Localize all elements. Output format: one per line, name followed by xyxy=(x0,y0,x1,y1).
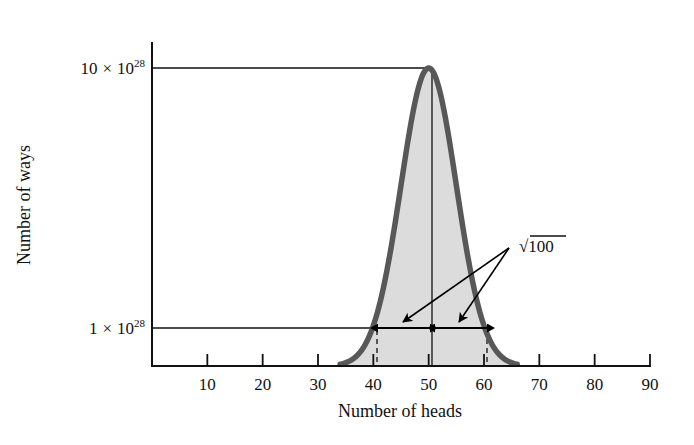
svg-text:10×1028: 10×1028 xyxy=(80,57,145,78)
x-axis-tick-label: 10 xyxy=(199,375,216,394)
figure-container: 102030405060708090 10×1028 1×1028 √100 N… xyxy=(0,0,694,445)
y-bottom-mantissa: 1 xyxy=(89,319,98,338)
x-axis-tick-label: 20 xyxy=(254,375,271,394)
x-axis-tick-label: 60 xyxy=(476,375,493,394)
y-axis-tick-label-top: 10×1028 xyxy=(80,57,145,78)
x-axis-ticks xyxy=(207,354,650,366)
y-bottom-base: 10 xyxy=(117,319,134,338)
chart-svg: 102030405060708090 10×1028 1×1028 √100 N… xyxy=(0,0,694,445)
y-top-exponent: 28 xyxy=(134,57,146,69)
x-axis-tick-label: 90 xyxy=(642,375,659,394)
x-axis-title: Number of heads xyxy=(338,401,462,421)
y-bottom-times: × xyxy=(102,319,112,338)
x-axis-tick-label: 40 xyxy=(365,375,382,394)
y-top-mantissa: 10 xyxy=(80,59,97,78)
y-bottom-exponent: 28 xyxy=(134,317,146,329)
y-top-times: × xyxy=(102,59,112,78)
svg-text:1×1028: 1×1028 xyxy=(89,317,146,338)
x-axis-tick-label: 80 xyxy=(586,375,603,394)
distribution-fill xyxy=(340,68,517,366)
x-axis-tick-label: 50 xyxy=(420,375,437,394)
sqrt-100-annotation: √100 xyxy=(519,236,566,256)
y-axis-tick-label-bottom: 1×1028 xyxy=(89,317,146,338)
sqrt-radicand: 100 xyxy=(528,237,554,256)
x-axis-tick-label: 70 xyxy=(531,375,548,394)
shaded-area-group xyxy=(340,68,517,366)
x-axis-tick-label: 30 xyxy=(310,375,327,394)
y-axis-title: Number of ways xyxy=(14,145,34,265)
svg-text:√100: √100 xyxy=(519,237,554,256)
x-axis-tick-labels: 102030405060708090 xyxy=(199,375,659,394)
y-top-base: 10 xyxy=(117,59,134,78)
